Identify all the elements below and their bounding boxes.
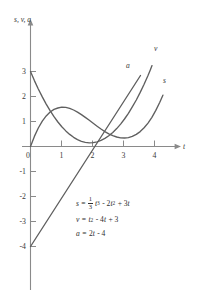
x-axis-arrowhead	[175, 144, 181, 150]
equation-a-lhs: a	[76, 229, 80, 238]
equation-a-constant: - 4	[97, 229, 105, 238]
equation-a: a = 2t - 4	[76, 229, 196, 238]
equation-v-term2-var: t	[104, 215, 106, 224]
equation-s-term3-var: t	[128, 199, 130, 208]
y-tick-label-1: 1	[17, 117, 26, 126]
equation-s-frac-numerator: 1	[88, 196, 93, 203]
equation-s-term3: + 3	[118, 199, 128, 208]
curve-v	[31, 66, 153, 143]
curve-s	[31, 95, 163, 146]
equation-s: s = 1 3 t3 - 2t2 + 3t	[76, 196, 196, 211]
y-tick-label-neg3: -3	[12, 217, 26, 226]
equation-s-term2: - 2	[102, 199, 110, 208]
origin-label: 0	[21, 151, 30, 160]
equation-v: v = t2 - 4t + 3	[76, 215, 196, 224]
x-tick-label-1: 1	[57, 151, 66, 160]
curve-label-v: v	[154, 44, 157, 53]
y-axis-title: s, v, a	[14, 15, 31, 24]
curve-label-s: s	[163, 76, 166, 85]
equation-v-constant: + 3	[108, 215, 118, 224]
equation-v-term2: - 4	[96, 215, 104, 224]
equation-s-equals: =	[81, 199, 85, 208]
y-tick-label-neg4: -4	[12, 242, 26, 251]
y-tick-label-neg1: -1	[12, 167, 26, 176]
x-tick-label-2: 2	[88, 151, 97, 160]
equation-s-lhs: s	[76, 199, 79, 208]
equation-a-variable: t	[93, 229, 95, 238]
equation-s-frac-denominator: 3	[88, 203, 93, 211]
x-tick-label-4: 4	[150, 151, 159, 160]
x-tick-label-3: 3	[119, 151, 128, 160]
calculus-motion-figure: s, v, a t 3 2 1 -1 -2 -3 -4 0 1 2 3 4 a …	[0, 0, 201, 301]
curve-label-a: a	[126, 61, 130, 70]
x-axis-title: t	[183, 142, 185, 151]
equation-a-equals: =	[82, 229, 86, 238]
equation-v-lhs: v	[76, 215, 79, 224]
equations-block: s = 1 3 t3 - 2t2 + 3t v = t2 - 4t + 3 a	[76, 196, 196, 242]
y-tick-label-3: 3	[17, 67, 26, 76]
y-tick-label-2: 2	[17, 92, 26, 101]
equation-s-fraction: 1 3	[88, 196, 93, 211]
plot-canvas	[0, 0, 201, 301]
equation-v-equals: =	[82, 215, 86, 224]
y-tick-label-neg2: -2	[12, 192, 26, 201]
